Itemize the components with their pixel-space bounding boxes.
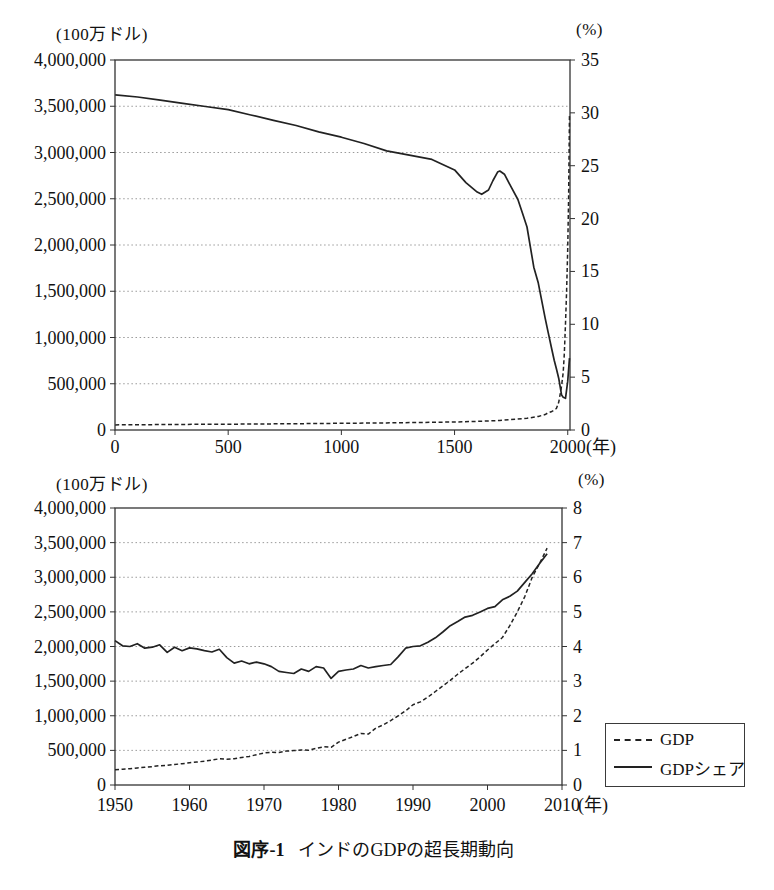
x-tick-label: 2010 <box>544 795 580 815</box>
figure-page: (100万ドル) (%) (100万ドル) (%) 0500,0001,000,… <box>0 0 774 890</box>
left-tick-label: 0 <box>97 775 106 795</box>
gdp-line <box>115 548 547 770</box>
right-tick-label: 0 <box>573 775 582 795</box>
x-tick-label: 1970 <box>246 795 282 815</box>
india-gdp-super-long-term-plot: 0500,0001,000,0001,500,0002,000,0002,500… <box>34 50 616 458</box>
x-tick-label: 1000 <box>323 437 359 457</box>
figure-caption: 図序-1インドのGDPの超長期動向 <box>0 835 748 861</box>
right-tick-label: 35 <box>581 50 599 70</box>
left-tick-label: 3,500,000 <box>34 533 106 553</box>
chart-legend: GDPGDPシェア <box>605 723 745 787</box>
x-tick-label: 1950 <box>97 795 133 815</box>
x-tick-label: 1980 <box>321 795 357 815</box>
x-axis-unit: (年) <box>578 795 608 816</box>
solid-line-swatch <box>614 766 652 768</box>
right-tick-label: 6 <box>573 567 582 587</box>
right-tick-label: 8 <box>573 498 582 518</box>
legend-entry-0: GDP <box>614 730 738 750</box>
right-tick-label: 20 <box>581 209 599 229</box>
right-tick-label: 5 <box>581 367 590 387</box>
right-tick-label: 10 <box>581 314 599 334</box>
india-gdp-1950-2008-plot: 0500,0001,000,0001,500,0002,000,0002,500… <box>34 498 608 816</box>
x-tick-label: 1990 <box>395 795 431 815</box>
legend-entry-1: GDPシェア <box>614 755 738 780</box>
right-tick-label: 7 <box>573 533 582 553</box>
x-axis-unit: (年) <box>586 437 616 458</box>
legend-label: GDP <box>660 730 694 750</box>
left-tick-label: 0 <box>97 420 106 440</box>
left-tick-label: 500,000 <box>48 374 107 394</box>
left-tick-label: 1,000,000 <box>34 706 106 726</box>
x-tick-label: 500 <box>215 437 242 457</box>
right-tick-label: 5 <box>573 602 582 622</box>
left-tick-label: 3,000,000 <box>34 567 106 587</box>
left-tick-label: 2,000,000 <box>34 235 106 255</box>
right-tick-label: 4 <box>573 637 582 657</box>
gdp-share-line <box>115 95 569 398</box>
right-tick-label: 30 <box>581 103 599 123</box>
x-tick-label: 1960 <box>172 795 208 815</box>
right-tick-label: 2 <box>573 706 582 726</box>
left-tick-label: 4,000,000 <box>34 498 106 518</box>
left-tick-label: 1,500,000 <box>34 281 106 301</box>
gdp-line <box>115 114 569 425</box>
right-tick-label: 25 <box>581 156 599 176</box>
right-tick-label: 3 <box>573 671 582 691</box>
x-tick-label: 2000 <box>550 437 586 457</box>
left-tick-label: 3,500,000 <box>34 96 106 116</box>
dashed-line-swatch <box>614 739 652 741</box>
left-tick-label: 1,000,000 <box>34 328 106 348</box>
left-tick-label: 4,000,000 <box>34 50 106 70</box>
left-tick-label: 2,000,000 <box>34 637 106 657</box>
x-tick-label: 2000 <box>470 795 506 815</box>
x-tick-label: 1500 <box>437 437 473 457</box>
figure-title: インドのGDPの超長期動向 <box>298 840 514 860</box>
left-tick-label: 500,000 <box>48 740 107 760</box>
left-tick-label: 3,000,000 <box>34 143 106 163</box>
right-tick-label: 1 <box>573 740 582 760</box>
x-tick-label: 0 <box>111 437 120 457</box>
gdp-share-line <box>115 554 547 679</box>
legend-label: GDPシェア <box>660 755 745 780</box>
left-tick-label: 2,500,000 <box>34 189 106 209</box>
left-tick-label: 2,500,000 <box>34 602 106 622</box>
left-tick-label: 1,500,000 <box>34 671 106 691</box>
figure-number: 図序-1 <box>233 840 284 860</box>
right-tick-label: 15 <box>581 261 599 281</box>
